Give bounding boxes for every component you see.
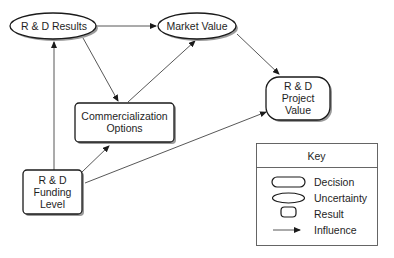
edge-marketvalue-to-projectvalue: [237, 34, 279, 74]
key-label-decision: Decision: [314, 176, 354, 188]
key-label-uncertainty: Uncertainty: [314, 192, 367, 204]
commercialization-options-label: Commercialization Options: [75, 110, 174, 134]
key-label-influence: Influence: [314, 224, 357, 236]
edge-funding-to-commercialization: [82, 146, 109, 172]
key-label-result: Result: [314, 208, 344, 220]
rd-results-label: R & D Results: [12, 20, 96, 32]
market-value-label: Market Value: [158, 20, 236, 32]
key-title: Key: [256, 150, 377, 162]
key-uncertainty-swatch: [273, 193, 305, 203]
rd-funding-level-label: R & D Funding Level: [23, 174, 82, 210]
edge-rdresults-to-commercialization: [83, 38, 118, 101]
key-decision-swatch: [272, 177, 305, 187]
rd-project-value-label: R & D Project Value: [266, 80, 330, 116]
edge-commercialization-to-marketvalue: [128, 41, 195, 102]
key-result-swatch: [281, 207, 296, 217]
